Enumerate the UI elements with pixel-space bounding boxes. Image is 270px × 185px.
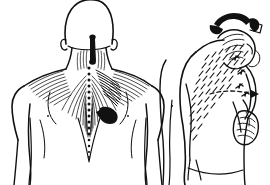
canvas-background (0, 0, 270, 185)
anatomical-illustration: Trapezius trigger points and referred pa… (0, 0, 270, 185)
illustration-canvas (0, 0, 270, 185)
far-body-landmark-dot (171, 105, 173, 107)
right-landmark-dot (127, 115, 129, 117)
left-landmark-dot (47, 115, 49, 117)
